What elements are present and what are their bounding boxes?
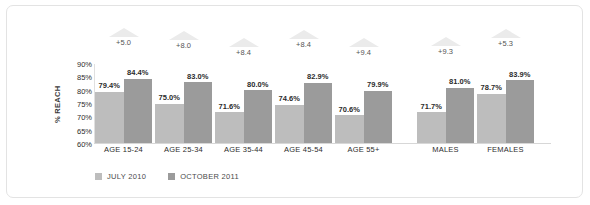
- delta-label: +8.4: [274, 40, 334, 49]
- y-axis-tick: 80%: [77, 88, 92, 96]
- bar-value-label: 78.7%: [481, 83, 502, 92]
- plot-area: 79.4%84.4%AGE 15-2475.0%83.0%AGE 25-3471…: [95, 64, 550, 143]
- bar-group-bars: 71.6%80.0%: [215, 64, 272, 143]
- bar-group-bars: 75.0%83.0%: [155, 64, 212, 143]
- chart-legend: JULY 2010OCTOBER 2011: [95, 172, 239, 181]
- bar-slot: 74.6%: [275, 64, 304, 143]
- x-axis-category-label: AGE 55+: [347, 145, 379, 154]
- bar-july[interactable]: 79.4%: [95, 92, 124, 143]
- bar-value-label: 79.9%: [367, 80, 388, 89]
- x-axis-category-label: AGE 15-24: [104, 145, 143, 154]
- up-arrow-icon: [229, 38, 259, 47]
- y-axis-tick: 70%: [77, 114, 92, 122]
- x-axis-category-label: AGE 35-44: [224, 145, 263, 154]
- bar-group: 75.0%83.0%AGE 25-34: [155, 64, 212, 143]
- bar-value-label: 83.0%: [187, 72, 208, 81]
- x-axis-category-label: FEMALES: [487, 145, 523, 154]
- delta-label: +5.3: [476, 39, 536, 48]
- delta-label: +9.3: [416, 47, 476, 56]
- y-axis-tick: 85%: [77, 74, 92, 82]
- delta-label: +8.0: [154, 41, 214, 50]
- up-arrow-icon: [431, 37, 461, 46]
- bar-july[interactable]: 74.6%: [275, 105, 304, 143]
- bar-slot: 83.0%: [184, 64, 213, 143]
- bar-value-label: 82.9%: [307, 72, 328, 81]
- x-axis-category-label: AGE 25-34: [164, 145, 203, 154]
- delta-annotation: +8.4: [214, 38, 274, 57]
- x-axis-line: [94, 143, 551, 144]
- delta-annotation: +9.3: [416, 37, 476, 56]
- y-axis-title: % REACH: [51, 66, 63, 142]
- bar-slot: 81.0%: [446, 64, 475, 143]
- bar-october[interactable]: 83.0%: [184, 82, 213, 143]
- bar-july[interactable]: 71.6%: [215, 112, 244, 143]
- bar-october[interactable]: 82.9%: [304, 83, 333, 143]
- bar-group-bars: 74.6%82.9%: [275, 64, 332, 143]
- legend-item[interactable]: JULY 2010: [95, 172, 146, 181]
- bar-value-label: 84.4%: [127, 68, 148, 77]
- delta-annotation: +8.0: [154, 31, 214, 50]
- bar-slot: 70.6%: [335, 64, 364, 143]
- bar-value-label: 81.0%: [449, 77, 470, 86]
- delta-annotation: +5.0: [94, 28, 154, 47]
- up-arrow-icon: [289, 30, 319, 39]
- bar-group-bars: 78.7%83.9%: [477, 64, 534, 143]
- bar-value-label: 79.4%: [99, 81, 120, 90]
- bar-group-bars: 70.6%79.9%: [335, 64, 392, 143]
- y-axis-tick: 90%: [77, 61, 92, 69]
- legend-swatch-icon: [168, 173, 175, 180]
- bar-slot: 71.7%: [417, 64, 446, 143]
- bar-july[interactable]: 78.7%: [477, 94, 506, 143]
- bar-october[interactable]: 80.0%: [244, 90, 273, 143]
- bar-group-bars: 79.4%84.4%: [95, 64, 152, 143]
- bar-group-bars: 71.7%81.0%: [417, 64, 474, 143]
- bar-group: 71.7%81.0%MALES: [417, 64, 474, 143]
- up-arrow-icon: [349, 38, 379, 47]
- bar-group: 71.6%80.0%AGE 35-44: [215, 64, 272, 143]
- bar-slot: 75.0%: [155, 64, 184, 143]
- delta-annotation: +8.4: [274, 30, 334, 49]
- delta-label: +8.4: [214, 48, 274, 57]
- bar-group: 79.4%84.4%AGE 15-24: [95, 64, 152, 143]
- bar-slot: 83.9%: [506, 64, 535, 143]
- bar-july[interactable]: 75.0%: [155, 104, 184, 144]
- delta-label: +9.4: [334, 48, 394, 57]
- bar-october[interactable]: 81.0%: [446, 88, 475, 143]
- bar-group: 70.6%79.9%AGE 55+: [335, 64, 392, 143]
- bar-october[interactable]: 83.9%: [506, 80, 535, 143]
- bar-value-label: 80.0%: [247, 80, 268, 89]
- y-axis-tick: 75%: [77, 101, 92, 109]
- bar-value-label: 71.6%: [219, 102, 240, 111]
- chart-card: % REACH 90%85%80%75%70%65%60% 79.4%84.4%…: [6, 5, 583, 198]
- bar-slot: 78.7%: [477, 64, 506, 143]
- bar-group: 74.6%82.9%AGE 45-54: [275, 64, 332, 143]
- bar-slot: 79.9%: [364, 64, 393, 143]
- up-arrow-icon: [109, 28, 139, 37]
- bar-slot: 82.9%: [304, 64, 333, 143]
- bar-value-label: 71.7%: [421, 102, 442, 111]
- bar-slot: 71.6%: [215, 64, 244, 143]
- up-arrow-icon: [491, 29, 521, 38]
- legend-label: JULY 2010: [107, 172, 146, 181]
- bar-value-label: 70.6%: [339, 105, 360, 114]
- bar-october[interactable]: 79.9%: [364, 91, 393, 143]
- x-axis-category-label: MALES: [432, 145, 458, 154]
- up-arrow-icon: [169, 31, 199, 40]
- bar-october[interactable]: 84.4%: [124, 79, 153, 143]
- bar-july[interactable]: 71.7%: [417, 112, 446, 143]
- bar-slot: 80.0%: [244, 64, 273, 143]
- bar-group: 78.7%83.9%FEMALES: [477, 64, 534, 143]
- legend-item[interactable]: OCTOBER 2011: [168, 172, 239, 181]
- legend-swatch-icon: [95, 173, 102, 180]
- bar-july[interactable]: 70.6%: [335, 115, 364, 143]
- bar-slot: 84.4%: [124, 64, 153, 143]
- bar-value-label: 75.0%: [159, 93, 180, 102]
- bar-slot: 79.4%: [95, 64, 124, 143]
- delta-label: +5.0: [94, 38, 154, 47]
- x-axis-category-label: AGE 45-54: [284, 145, 323, 154]
- delta-annotation: +5.3: [476, 29, 536, 48]
- legend-label: OCTOBER 2011: [180, 172, 239, 181]
- bar-value-label: 83.9%: [509, 70, 530, 79]
- delta-annotation: +9.4: [334, 38, 394, 57]
- y-axis-tick: 65%: [77, 128, 92, 136]
